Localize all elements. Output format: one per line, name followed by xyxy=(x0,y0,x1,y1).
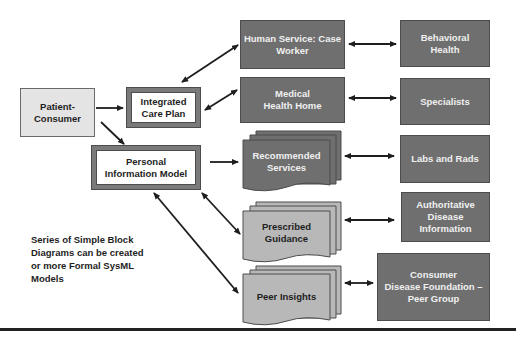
recommended-services-label: Recommended Services xyxy=(252,150,320,174)
diagram-note-text: Series of Simple Block Diagrams can be c… xyxy=(31,234,143,284)
bottom-divider xyxy=(0,328,516,331)
human-service-node[interactable]: Human Service: Case Worker xyxy=(240,20,345,69)
specialists-node[interactable]: Specialists xyxy=(400,78,490,125)
personal-information-model-node[interactable]: Personal Information Model xyxy=(91,145,201,190)
diagram-note: Series of Simple Block Diagrams can be c… xyxy=(31,233,151,285)
integrated-care-plan-label: Integrated Care Plan xyxy=(141,96,187,120)
peer-insights-label: Peer Insights xyxy=(257,291,317,303)
specialists-label: Specialists xyxy=(420,96,470,108)
prescribed-guidance-label: Prescribed Guidance xyxy=(262,221,311,245)
behavioral-health-label: Behavioral Health xyxy=(421,32,470,56)
prescribed-guidance-label-wrap: Prescribed Guidance xyxy=(243,213,330,253)
patient-consumer-label: Patient- Consumer xyxy=(34,101,81,125)
authoritative-disease-information-label: Authoritative Disease Information xyxy=(416,199,475,235)
medical-health-home-label: Medical Health Home xyxy=(263,88,321,112)
labs-and-rads-label: Labs and Rads xyxy=(411,153,479,165)
personal-information-model-label: Personal Information Model xyxy=(105,156,187,180)
behavioral-health-node[interactable]: Behavioral Health xyxy=(400,20,490,67)
recommended-services-label-wrap: Recommended Services xyxy=(243,142,330,182)
consumer-disease-foundation-node[interactable]: Consumer Disease Foundation – Peer Group xyxy=(377,253,490,321)
authoritative-disease-information-node[interactable]: Authoritative Disease Information xyxy=(401,192,490,242)
patient-consumer-node[interactable]: Patient- Consumer xyxy=(20,88,95,137)
labs-and-rads-node[interactable]: Labs and Rads xyxy=(400,135,490,183)
medical-health-home-node[interactable]: Medical Health Home xyxy=(240,77,345,123)
consumer-disease-foundation-label: Consumer Disease Foundation – Peer Group xyxy=(384,269,482,305)
integrated-care-plan-node[interactable]: Integrated Care Plan xyxy=(126,87,201,128)
human-service-label: Human Service: Case Worker xyxy=(244,33,341,57)
peer-insights-label-wrap: Peer Insights xyxy=(243,277,330,317)
